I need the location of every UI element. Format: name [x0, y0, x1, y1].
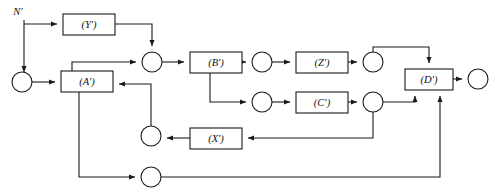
block-Z: (Z′)	[296, 52, 348, 73]
signal-flow-diagram: (Y′) (A′) (B′) (Z′) (C′) (X′)	[0, 0, 497, 196]
edge-A-to-sum	[72, 62, 136, 71]
block-D-label: (D′)	[421, 74, 438, 86]
block-X-label: (X′)	[208, 133, 224, 145]
block-C: (C′)	[296, 92, 348, 113]
block-B: (B′)	[190, 52, 242, 73]
edge-B-to-preC	[210, 73, 246, 102]
node-after-Z	[363, 52, 383, 72]
input-signal-label: N′	[12, 6, 23, 17]
node-pre-C	[252, 92, 272, 112]
edge-preX-to-A	[119, 84, 151, 126]
block-A-label: (A′)	[79, 76, 95, 88]
node-input	[12, 72, 32, 92]
edge-A-to-bottom	[79, 92, 135, 177]
block-layer: (Y′) (A′) (B′) (Z′) (C′) (X′)	[61, 14, 453, 149]
node-after-B	[252, 52, 272, 72]
diagram-canvas: (Y′) (A′) (B′) (Z′) (C′) (X′)	[0, 0, 497, 196]
block-X: (X′)	[190, 128, 242, 149]
block-Y-label: (Y′)	[81, 19, 97, 31]
block-B-label: (B′)	[208, 57, 224, 69]
edge-layer	[24, 20, 462, 177]
node-sum-top	[142, 52, 162, 72]
edge-afterC-to-X	[248, 112, 373, 138]
block-Y: (Y′)	[63, 14, 115, 35]
block-Z-label: (Z′)	[314, 57, 330, 69]
node-pre-X-left	[141, 126, 161, 146]
block-C-label: (C′)	[314, 97, 331, 109]
node-output	[468, 69, 488, 89]
block-A: (A′)	[61, 71, 113, 92]
block-D: (D′)	[405, 69, 453, 90]
edge-afterC-to-D	[383, 96, 415, 102]
external-label-layer: N′	[12, 6, 23, 17]
edge-Y-to-sum	[115, 24, 152, 46]
node-bottom	[141, 167, 161, 187]
node-after-C	[363, 92, 383, 112]
